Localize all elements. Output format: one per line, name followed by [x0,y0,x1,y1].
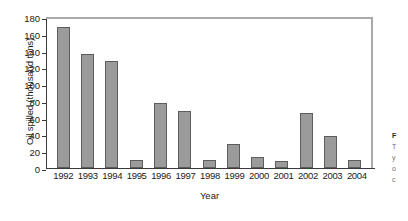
x-axis-tick-label-2004: 2004 [345,170,369,181]
bar-slot [270,17,294,168]
y-axis-tick-mark [42,153,46,154]
y-axis-tick-label: 160 [14,30,40,41]
y-axis-tick-label: 60 [14,114,40,125]
x-axis-tick-label-2000: 2000 [247,170,271,181]
x-axis-tick-label-2002: 2002 [296,170,320,181]
bar-slot [294,17,318,168]
x-axis-tick-label-1992: 1992 [51,170,75,181]
bar-2001 [275,161,288,168]
y-axis-tick-label: 20 [14,147,40,158]
x-axis-title: Year [46,190,373,201]
y-axis-tick-mark [42,120,46,121]
x-axis-tick-label-1994: 1994 [100,170,124,181]
y-axis-tick-mark [42,53,46,54]
bar-slot [100,17,124,168]
y-axis-tick-label: 100 [14,80,40,91]
x-axis-tick-label-2001: 2001 [271,170,295,181]
y-axis-tick-label: 40 [14,130,40,141]
caption-line-4: o [392,163,408,174]
bar-2002 [300,113,313,168]
y-axis-tick-label: 120 [14,63,40,74]
caption-line-3: y [392,152,408,163]
bar-slot [75,17,99,168]
x-axis-tick-label-1998: 1998 [198,170,222,181]
bar-1993 [81,54,94,168]
x-axis-tick-label-1999: 1999 [222,170,246,181]
x-axis-tick-label-1993: 1993 [75,170,99,181]
y-axis-tick-mark [42,36,46,37]
bar-1994 [105,61,118,168]
bar-1997 [178,111,191,168]
caption-line-1: F [392,130,408,141]
y-axis-tick-mark [42,86,46,87]
bar-slot [318,17,342,168]
x-axis-tick-labels: 1992199319941995199619971998199920002001… [46,170,373,181]
bar-1995 [130,160,143,168]
x-axis-tick-label-1995: 1995 [124,170,148,181]
bar-2000 [251,157,264,168]
y-axis-tick-label: 140 [14,47,40,58]
y-axis-tick-label: 0 [14,164,40,175]
x-axis-tick-label-1997: 1997 [173,170,197,181]
y-axis-tick-mark [42,103,46,104]
y-axis-tick-mark [42,136,46,137]
bar-series [46,17,371,168]
y-axis-tick-mark [42,19,46,20]
bar-slot [148,17,172,168]
caption-line-5: c [392,174,408,185]
y-axis-tick-label: 180 [14,13,40,24]
bar-1998 [203,160,216,168]
caption-line-2: T [392,141,408,152]
bar-slot [51,17,75,168]
y-axis-tick-mark [42,69,46,70]
figure-oil-spilled-bar-chart: Oil spilled (thousand tons) 020406080100… [0,0,408,221]
x-axis-tick-label-1996: 1996 [149,170,173,181]
bar-slot [221,17,245,168]
bar-slot [197,17,221,168]
bar-slot [246,17,270,168]
clipped-caption-fragment: F T y o c [392,130,408,190]
bar-1992 [57,27,70,168]
x-axis-tick-label-2003: 2003 [320,170,344,181]
plot-area: 020406080100120140160180 [46,17,373,168]
bar-2004 [348,160,361,168]
bar-1999 [227,144,240,168]
bar-slot [173,17,197,168]
bar-1996 [154,103,167,168]
y-axis-tick-label: 80 [14,97,40,108]
bar-2003 [324,136,337,168]
x-axis-line [46,168,375,169]
bar-slot [343,17,367,168]
bar-slot [124,17,148,168]
